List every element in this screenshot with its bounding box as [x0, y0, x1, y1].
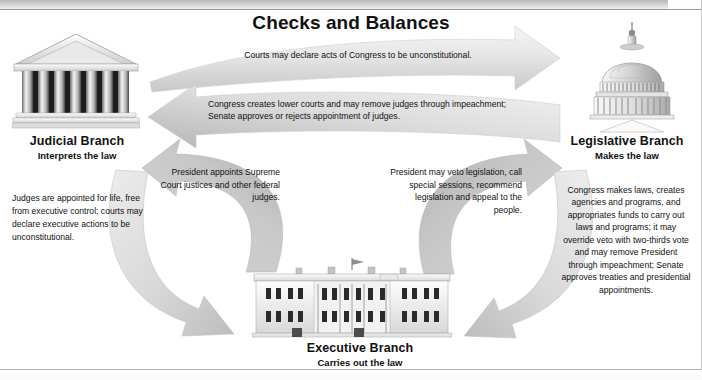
arrow-label-executive-to-legislative: President may veto legislation, call spe…: [390, 166, 522, 217]
arrow-label-judicial-to-executive: Judges are appointed for life, free from…: [12, 192, 152, 244]
branch-name-executive: Executive Branch: [260, 341, 460, 355]
branch-label-legislative: Legislative Branch Makes the law: [552, 134, 702, 161]
arrow-label-legislative-to-executive: Congress makes laws, creates agencies an…: [560, 184, 692, 296]
courthouse-icon: [12, 30, 140, 134]
branch-label-judicial: Judicial Branch Interprets the law: [2, 134, 152, 161]
branch-role-judicial: Interprets the law: [2, 150, 152, 161]
branch-role-legislative: Makes the law: [552, 150, 702, 161]
arrow-executive-to-judicial: [142, 139, 283, 272]
arrow-label-legislative-to-judicial: Congress creates lower courts and may re…: [208, 98, 520, 123]
capitol-dome-icon: [578, 22, 686, 134]
arrow-label-judicial-to-legislative: Courts may declare acts of Congress to b…: [208, 50, 508, 61]
white-house-icon: [252, 258, 452, 342]
branch-role-executive: Carries out the law: [260, 357, 460, 368]
branch-name-legislative: Legislative Branch: [552, 134, 702, 148]
page-scan-edge-bottom: [0, 370, 702, 380]
diagram-canvas: Checks and Balances Courts may declare a…: [0, 0, 702, 380]
arrow-label-executive-to-judicial: President appoints Supreme Court justice…: [150, 166, 280, 204]
branch-name-judicial: Judicial Branch: [2, 134, 152, 148]
branch-label-executive: Executive Branch Carries out the law: [260, 341, 460, 368]
page-title: Checks and Balances: [0, 12, 702, 34]
